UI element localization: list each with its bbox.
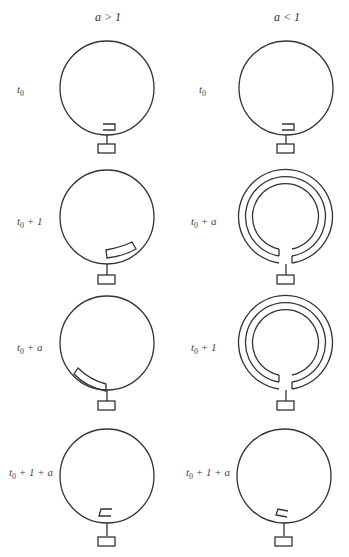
right-row-1 bbox=[239, 41, 333, 153]
right-row-3 bbox=[238, 295, 332, 410]
left-row-4 bbox=[60, 429, 154, 546]
left-row-3 bbox=[60, 296, 154, 410]
right-row-4 bbox=[237, 429, 331, 546]
right-row-2 bbox=[238, 169, 332, 284]
left-row-2 bbox=[60, 170, 154, 284]
left-row-1 bbox=[60, 41, 154, 153]
diagram-canvas bbox=[0, 0, 349, 557]
